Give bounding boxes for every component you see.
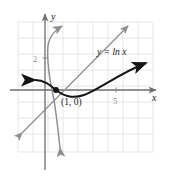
x-axis-label: x	[151, 92, 157, 103]
graph-figure: y x 2 5 (1, 0) y = ln x	[0, 0, 170, 182]
y-axis-label: y	[50, 11, 56, 22]
figure-background	[0, 0, 170, 182]
point-label: (1, 0)	[61, 97, 82, 108]
point-marker-1-0	[53, 87, 59, 93]
graph-canvas: y x 2 5 (1, 0) y = ln x	[0, 0, 170, 182]
y-tick-label-2: 2	[33, 54, 37, 64]
curve-label: y = ln x	[96, 47, 127, 57]
x-tick-label-5: 5	[113, 96, 117, 106]
